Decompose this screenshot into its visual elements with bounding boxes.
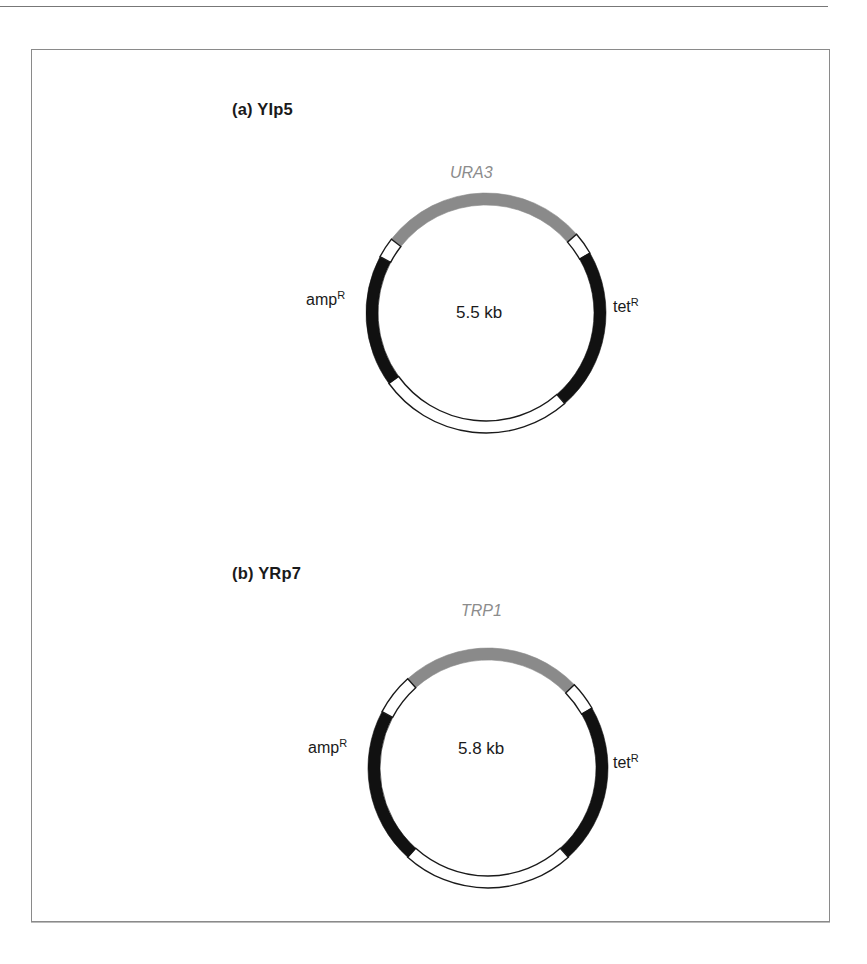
segment-spacer-2	[389, 376, 565, 433]
segment-tetr	[560, 708, 608, 857]
segment-spacer-1	[566, 685, 592, 714]
segment-ura3	[391, 193, 576, 247]
segment-ampr	[368, 712, 416, 858]
segment-ampr	[366, 257, 399, 384]
segment-spacer-2	[408, 848, 569, 888]
segment-spacer-3	[382, 679, 416, 717]
segment-tetr	[557, 253, 606, 404]
panel-a-plasmid-ring	[366, 193, 606, 433]
plasmid-maps	[0, 0, 867, 964]
panel-b-plasmid-ring	[368, 648, 608, 888]
segment-trp1	[408, 648, 575, 693]
